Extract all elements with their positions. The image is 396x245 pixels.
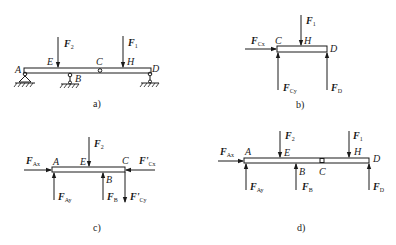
beam-ad xyxy=(24,68,151,73)
point-d-label: D xyxy=(329,43,338,54)
panel-c: FAx FAy F2 FB F'Cx F'Cy A E B C c) xyxy=(24,137,155,234)
force-f1-label: F1 xyxy=(352,130,363,142)
point-e-label: E xyxy=(283,147,290,158)
force-f2-label: F2 xyxy=(63,38,74,50)
roller-support-d xyxy=(140,72,159,87)
force-f2-label: F2 xyxy=(93,138,104,150)
point-e-label: E xyxy=(46,56,53,67)
caption-d: d) xyxy=(297,222,305,234)
force-fd-label: FD xyxy=(330,82,343,94)
point-e-label: E xyxy=(79,156,86,167)
force-f2-label: F2 xyxy=(284,130,295,142)
point-a-label: A xyxy=(14,64,22,75)
beam-ac xyxy=(52,167,125,172)
point-c-label: C xyxy=(96,56,103,67)
caption-c: c) xyxy=(93,222,101,234)
force-fcy-label: FCy xyxy=(282,82,297,94)
force-fay-label: FAy xyxy=(249,181,263,193)
beam-ad xyxy=(244,158,369,163)
beam-cd xyxy=(277,46,327,52)
force-fax-label: FAx xyxy=(25,155,40,167)
caption-b: b) xyxy=(296,99,304,111)
force-fb-label: FB xyxy=(301,181,313,193)
point-b-label: B xyxy=(299,166,305,177)
panel-a: F2 F1 A E B C H D a) xyxy=(14,36,160,110)
point-c-label: C xyxy=(319,166,326,177)
panel-d: FAx FAy F2 FB F1 FD A E B C H D d) xyxy=(218,130,385,234)
point-d-label: D xyxy=(372,153,381,164)
beam-figure: F2 F1 A E B C H D a) F1 FCx FCy FD C H D… xyxy=(0,0,396,245)
point-d-label: D xyxy=(151,63,160,74)
point-a-label: A xyxy=(244,146,252,157)
point-b-label: B xyxy=(75,73,81,84)
force-fax-label: FAx xyxy=(219,146,234,158)
force-fcx-label: FCx xyxy=(250,35,265,47)
caption-a: a) xyxy=(93,98,101,110)
point-h-label: H xyxy=(303,35,312,46)
force-fpcx-label: F'Cx xyxy=(138,155,155,167)
force-fb-label: FB xyxy=(106,191,118,203)
point-a-label: A xyxy=(52,156,60,167)
force-fay-label: FAy xyxy=(57,191,71,203)
panel-b: F1 FCx FCy FD C H D b) xyxy=(245,15,343,111)
point-h-label: H xyxy=(126,56,135,67)
force-fpcy-label: F'Cy xyxy=(129,191,146,203)
point-c-label: C xyxy=(275,35,282,46)
point-c-label: C xyxy=(122,155,129,166)
force-fd-label: FD xyxy=(372,181,385,193)
force-f1-label: F1 xyxy=(305,15,316,27)
force-f1-label: F1 xyxy=(127,37,138,49)
point-b-label: B xyxy=(106,174,112,185)
point-h-label: H xyxy=(353,146,362,157)
